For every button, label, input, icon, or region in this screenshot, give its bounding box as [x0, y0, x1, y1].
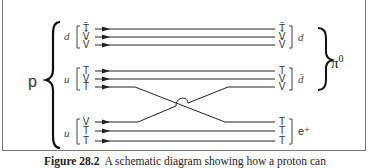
proton-label: p: [28, 73, 37, 91]
figure-caption: Figure 28.2 A schematic diagram showing …: [0, 155, 370, 167]
rishon-label: V̄: [81, 40, 91, 50]
rishon-label: V: [277, 82, 287, 92]
rishon-label: T: [277, 136, 287, 146]
proton-brace: [46, 22, 60, 148]
rishon-label: T: [81, 136, 91, 146]
right-antiquark-d: d̄: [298, 73, 304, 85]
positron-label: e⁺: [298, 125, 310, 138]
rishon-label: T: [81, 82, 91, 92]
figure-number: Figure 28.2: [44, 155, 99, 167]
left-quark-d: d: [64, 30, 70, 42]
pion-label: π0: [331, 53, 344, 72]
pion-charge: 0: [339, 53, 344, 64]
left-quark-u-middle: u: [64, 73, 70, 85]
left-quark-u-bottom: u: [64, 127, 70, 139]
caption-text: A schematic diagram showing how a proton…: [105, 155, 326, 167]
rishon-label: V̄: [277, 40, 287, 50]
right-quark-d: d: [298, 31, 304, 43]
rishon-flow-diagram: [0, 0, 370, 168]
pion-brace: [318, 28, 332, 90]
pion-symbol: π: [331, 55, 339, 71]
